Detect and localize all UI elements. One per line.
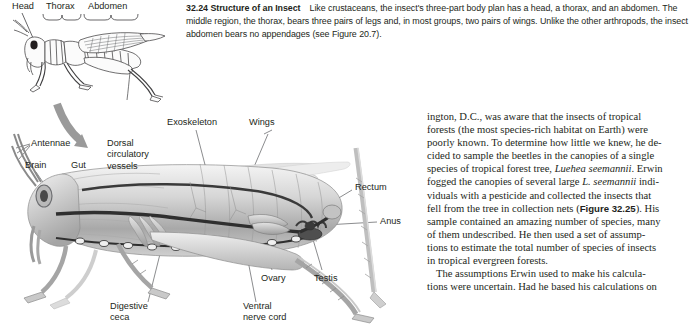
body-line: ington, D.C., was aware that the insects… <box>427 110 697 123</box>
body-line: The assumptions Erwin used to make his c… <box>427 267 697 280</box>
anatomy-label-brain: Brain <box>25 160 46 171</box>
anatomy-label-digestive-ceca: Digestive ceca <box>110 301 148 324</box>
anatomy-label-wings: Wings <box>249 117 275 128</box>
digestive-line-2: ceca <box>110 312 129 322</box>
body-line-text-tail: indi- <box>636 176 659 187</box>
body-line-with-species-abbrev: fogged the canopies of several large L. … <box>427 175 697 188</box>
body-line: cided to sample the beetles in the canop… <box>427 149 697 162</box>
grasshopper-line-drawing <box>0 0 186 105</box>
anatomy-label-gut: Gut <box>71 160 86 171</box>
body-line-text-tail: . Erwin <box>631 163 662 174</box>
upper-figure-line-art: Head Thorax Abdomen <box>0 0 186 105</box>
anatomy-label-exoskeleton: Exoskeleton <box>167 117 217 128</box>
body-line: sample contained an amazing number of sp… <box>427 215 697 228</box>
anatomy-label-antennae: Antennae <box>31 138 70 149</box>
anatomy-label-dorsal-circulatory-vessels: Dorsal circulatory vessels <box>107 138 149 172</box>
anatomy-label-ventral-nerve-cord: Ventral nerve cord <box>243 301 286 324</box>
upper-label-head: Head <box>12 1 34 11</box>
body-line-text: fell from the tree in collection nets ( <box>427 203 580 214</box>
insect-body-outline <box>13 20 165 102</box>
upper-label-thorax: Thorax <box>46 1 75 11</box>
upper-label-abdomen: Abdomen <box>88 1 127 11</box>
anus-art <box>305 222 315 230</box>
ventral-line-2: nerve cord <box>243 312 286 322</box>
digestive-line-1: Digestive <box>110 301 148 311</box>
body-text-column: ington, D.C., was aware that the insects… <box>427 110 697 293</box>
insect-eye <box>30 41 37 50</box>
body-line: poorly known. To determine how little we… <box>427 136 697 149</box>
figure-title: Structure of an Insect <box>210 3 300 13</box>
body-line-with-species: species of tropical forest tree, Luehea … <box>427 162 697 175</box>
species-name-abbrev: L. seemannii <box>582 176 636 187</box>
anatomy-label-anus: Anus <box>380 216 401 227</box>
body-line: viduals with a pesticide and collected t… <box>427 189 697 202</box>
dorsal-line-2: circulatory <box>107 149 149 159</box>
species-name-full: Luehea seemannii <box>555 163 632 174</box>
dorsal-line-1: Dorsal <box>107 138 134 148</box>
body-line-text: species of tropical forest tree, <box>427 163 555 174</box>
head-art <box>12 134 80 264</box>
anatomy-label-testis: Testis <box>314 273 337 284</box>
body-line-text: fogged the canopies of several large <box>427 176 582 187</box>
body-line: forests (the most species-rich habitat o… <box>427 123 697 136</box>
body-line: tions were uncertain. Had he based his c… <box>427 280 697 293</box>
anatomy-label-rectum: Rectum <box>355 182 387 193</box>
lower-figure-anatomy: Antennae Brain Gut Dorsal circulatory ve… <box>0 112 425 325</box>
figure-caption: 32.24 Structure of an InsectLike crustac… <box>186 2 697 42</box>
body-line-text-tail: ). His <box>636 203 660 214</box>
figure-cross-reference: Figure 32.25 <box>580 203 636 214</box>
dorsal-line-3: vessels <box>107 161 138 171</box>
anatomy-label-ovary: Ovary <box>261 273 286 284</box>
body-line: of them undescribed. He then used a set … <box>427 228 697 241</box>
body-line-with-figure-ref: fell from the tree in collection nets (F… <box>427 202 697 215</box>
body-line: in tropical evergreen forests. <box>427 254 697 267</box>
body-line: tions to estimate the total number of sp… <box>427 241 697 254</box>
ventral-line-1: Ventral <box>243 301 272 311</box>
figure-number: 32.24 <box>186 3 208 13</box>
